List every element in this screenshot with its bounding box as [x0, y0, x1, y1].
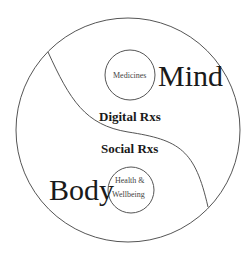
social-rxs-label: Social Rxs — [101, 142, 158, 155]
mind-body-diagram — [0, 0, 251, 255]
body-label: Body — [49, 175, 114, 205]
medicines-label: Medicines — [113, 72, 146, 80]
health-label-line1: Health & — [115, 177, 145, 185]
outer-circle — [16, 18, 240, 242]
mind-label: Mind — [158, 61, 223, 91]
digital-rxs-label: Digital Rxs — [99, 110, 161, 123]
health-label-line2: Wellbeing — [112, 191, 145, 199]
